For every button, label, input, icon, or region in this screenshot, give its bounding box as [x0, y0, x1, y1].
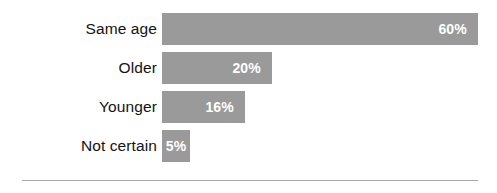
bar-track: 16% [162, 91, 497, 123]
bar-younger: 16% [162, 91, 245, 123]
bar-track: 60% [162, 13, 497, 45]
category-label-older: Older [0, 60, 162, 76]
bar-row: Younger 16% [0, 91, 497, 123]
bar-value-not-certain: 5% [166, 139, 187, 153]
category-label-same-age: Same age [0, 21, 162, 37]
bar-older: 20% [162, 52, 272, 84]
bar-chart-figure: Same age 60% Older 20% Younger 16% [0, 0, 497, 193]
category-label-younger: Younger [0, 99, 162, 115]
bar-row: Same age 60% [0, 13, 497, 45]
bar-value-older: 20% [232, 61, 272, 75]
bar-same-age: 60% [162, 13, 478, 45]
bar-not-certain: 5% [162, 130, 190, 162]
bar-row: Older 20% [0, 52, 497, 84]
bar-value-same-age: 60% [438, 22, 478, 36]
bar-value-younger: 16% [205, 100, 245, 114]
bar-row: Not certain 5% [0, 130, 497, 162]
bar-track: 20% [162, 52, 497, 84]
plot-area: Same age 60% Older 20% Younger 16% [0, 0, 497, 165]
bottom-divider-rule [22, 180, 478, 181]
category-label-not-certain: Not certain [0, 138, 162, 154]
bar-track: 5% [162, 130, 497, 162]
